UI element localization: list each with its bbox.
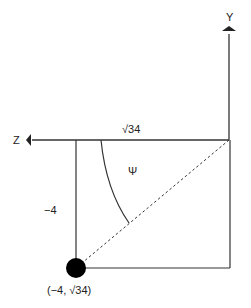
side-length-label: −4: [44, 205, 57, 216]
dashed-diagonal: [76, 140, 229, 268]
top-length-label: √34: [122, 124, 140, 135]
z-axis-arrowhead: [26, 134, 31, 146]
angle-arc: [101, 140, 129, 223]
y-axis-label: Y: [226, 12, 233, 23]
point-label: (−4, √34): [47, 285, 91, 296]
angle-label: Ψ: [128, 166, 137, 177]
z-axis-label: Z: [13, 135, 20, 146]
y-axis-arrowhead: [222, 26, 236, 31]
point-marker: [66, 258, 86, 278]
diagram-canvas: [0, 0, 251, 308]
